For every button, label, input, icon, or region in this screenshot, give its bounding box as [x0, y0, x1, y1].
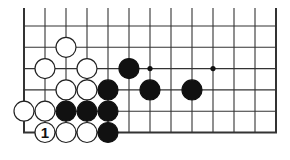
- move-number-label: 1: [41, 124, 49, 141]
- black-stone: [140, 80, 160, 100]
- white-stone: 1: [35, 123, 55, 143]
- black-stone: [98, 101, 118, 121]
- black-stone: [98, 123, 118, 143]
- white-stone: [77, 59, 97, 79]
- star-point: [147, 66, 152, 71]
- white-stone: [35, 101, 55, 121]
- white-stone: [14, 101, 34, 121]
- white-stone: [35, 59, 55, 79]
- black-stone: [98, 80, 118, 100]
- white-stone: [56, 80, 76, 100]
- black-stone: [182, 80, 202, 100]
- black-stone: [77, 101, 97, 121]
- white-stone: [77, 123, 97, 143]
- go-board-diagram: 1: [0, 0, 290, 160]
- star-point: [210, 66, 215, 71]
- white-stone: [77, 80, 97, 100]
- white-stone: [56, 123, 76, 143]
- black-stone: [56, 101, 76, 121]
- white-stone: [56, 37, 76, 57]
- black-stone: [119, 59, 139, 79]
